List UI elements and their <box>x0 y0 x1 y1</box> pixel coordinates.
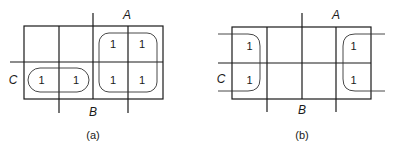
map-a-cell: 1 <box>38 74 44 86</box>
karnaugh-map-a: 1 1 1 1 1 1 A B C (a) <box>9 8 163 141</box>
map-b-label-c: C <box>217 72 226 86</box>
map-a-label-b: B <box>89 105 97 119</box>
map-a-cell: 1 <box>139 38 145 50</box>
map-a-caption: (a) <box>86 129 99 141</box>
map-a-label-a: A <box>122 8 131 22</box>
map-a-label-c: C <box>9 73 18 87</box>
map-a-cell: 1 <box>73 74 79 86</box>
map-b-caption: (b) <box>295 129 308 141</box>
map-b-label-b: B <box>298 103 306 117</box>
map-b-label-a: A <box>331 8 340 22</box>
karnaugh-maps-figure: 1 1 1 1 1 1 A B C (a) 1 1 1 1 A B C (b) <box>0 0 401 145</box>
map-a-cell: 1 <box>139 74 145 86</box>
map-b-cell: 1 <box>350 40 356 52</box>
map-b-cell: 1 <box>350 74 356 86</box>
map-a-cell: 1 <box>110 74 116 86</box>
karnaugh-map-b: 1 1 1 1 A B C (b) <box>217 8 385 141</box>
map-b-cell: 1 <box>246 74 252 86</box>
map-b-cell: 1 <box>246 40 252 52</box>
map-a-cell: 1 <box>110 38 116 50</box>
